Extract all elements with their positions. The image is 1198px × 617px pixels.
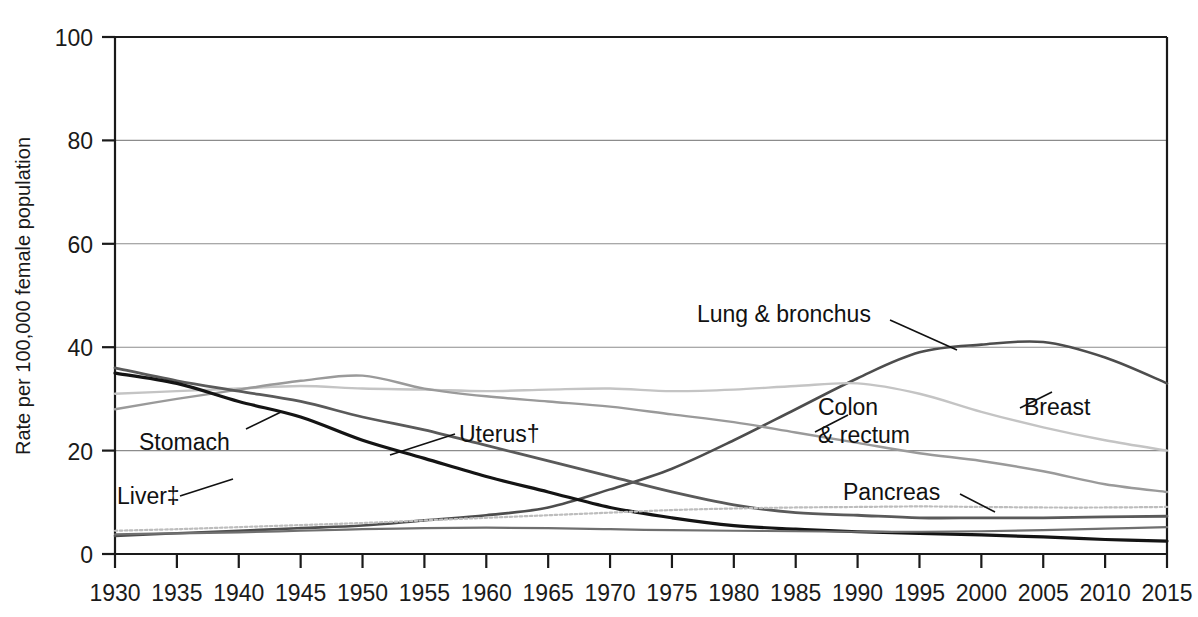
series-label-colon-line2: & rectum <box>818 422 910 448</box>
x-tick-label-1970: 1970 <box>584 580 635 606</box>
chart-canvas: Rate per 100,000 female population 02040… <box>0 0 1198 617</box>
series-label-breast: Breast <box>1024 394 1091 420</box>
x-tick-label-1945: 1945 <box>275 580 326 606</box>
leader-stomach <box>246 412 281 429</box>
series-line-colon-rectum <box>115 375 1167 492</box>
series-lines <box>115 341 1167 541</box>
series-label-liver: Liver‡ <box>117 483 180 509</box>
x-tick-label-2015: 2015 <box>1141 580 1192 606</box>
x-axis-ticks: 1930193519401945195019551960196519701975… <box>89 554 1192 606</box>
leader-lung <box>890 320 957 350</box>
series-label-stomach: Stomach <box>139 429 230 455</box>
x-tick-label-2005: 2005 <box>1018 580 1069 606</box>
plot-frame <box>115 37 1167 554</box>
series-label-lung: Lung & bronchus <box>697 301 871 327</box>
series-line-stomach <box>115 373 1167 541</box>
x-tick-label-1985: 1985 <box>770 580 821 606</box>
gridlines <box>115 140 1167 450</box>
y-axis-title: Rate per 100,000 female population <box>12 137 34 455</box>
x-tick-label-1940: 1940 <box>213 580 264 606</box>
x-tick-label-1980: 1980 <box>708 580 759 606</box>
leader-pancreas <box>960 494 995 512</box>
x-tick-label-1930: 1930 <box>89 580 140 606</box>
x-tick-label-1975: 1975 <box>646 580 697 606</box>
x-tick-label-1990: 1990 <box>832 580 883 606</box>
y-axis-ticks: 020406080100 <box>55 25 115 568</box>
series-label-pancreas: Pancreas <box>843 479 940 505</box>
x-tick-label-1955: 1955 <box>399 580 450 606</box>
x-tick-label-1960: 1960 <box>461 580 512 606</box>
x-tick-label-1935: 1935 <box>151 580 202 606</box>
y-tick-label-80: 80 <box>67 128 93 154</box>
x-tick-label-1995: 1995 <box>894 580 945 606</box>
x-tick-label-2000: 2000 <box>956 580 1007 606</box>
y-tick-label-20: 20 <box>67 439 93 465</box>
y-tick-label-60: 60 <box>67 232 93 258</box>
x-tick-label-2010: 2010 <box>1080 580 1131 606</box>
y-tick-label-40: 40 <box>67 335 93 361</box>
cancer-death-rate-chart: Rate per 100,000 female population 02040… <box>0 0 1198 617</box>
y-tick-label-0: 0 <box>80 542 93 568</box>
y-tick-label-100: 100 <box>55 25 93 51</box>
series-label-colon-line1: Colon <box>818 394 878 420</box>
x-tick-label-1965: 1965 <box>523 580 574 606</box>
x-tick-label-1950: 1950 <box>337 580 388 606</box>
leader-uterus <box>390 434 455 455</box>
series-label-uterus: Uterus† <box>459 421 540 447</box>
leader-liver <box>180 479 233 496</box>
